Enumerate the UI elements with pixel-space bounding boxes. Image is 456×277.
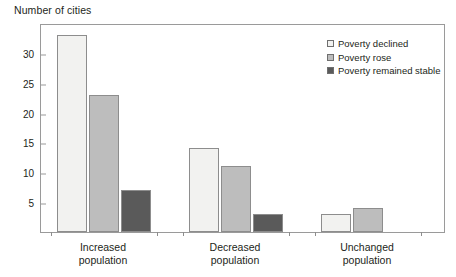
x-axis-category-label: Increasedpopulation <box>42 241 164 266</box>
legend-swatch <box>327 67 334 74</box>
x-axis-category-label-line: Decreased <box>174 241 296 254</box>
legend-swatch <box>327 40 334 47</box>
y-axis-tick-mark <box>41 114 46 115</box>
bar <box>221 166 251 232</box>
x-axis-tick-mark <box>421 232 422 236</box>
bar <box>121 190 151 232</box>
bar-group <box>57 25 169 232</box>
x-axis-tick-mark <box>51 232 52 236</box>
bar <box>89 95 119 232</box>
chart-legend: Poverty declinedPoverty rosePoverty rema… <box>327 38 440 76</box>
x-axis-category-label-line: population <box>42 254 164 267</box>
legend-label: Poverty rose <box>338 52 391 63</box>
bar <box>57 35 87 232</box>
x-axis-category-label-line: population <box>174 254 296 267</box>
x-axis-category-label-line: Unchanged <box>306 241 428 254</box>
x-axis-tick-mark <box>315 232 316 236</box>
x-axis-category-label-line: Increased <box>42 241 164 254</box>
x-axis-tick-mark <box>183 232 184 236</box>
y-axis-tick-label: 30 <box>23 50 41 60</box>
x-axis-tick-mark <box>289 232 290 236</box>
y-axis-tick-label: 5 <box>28 199 41 209</box>
bar <box>253 214 283 232</box>
x-axis-category-label: Unchangedpopulation <box>306 241 428 266</box>
bar-chart: Number of cities 51015202530 Poverty dec… <box>0 0 456 277</box>
bar-group <box>189 25 301 232</box>
bar <box>321 214 351 232</box>
y-axis-tick-mark <box>41 54 46 55</box>
x-axis-tick-mark <box>157 232 158 236</box>
y-axis-tick-mark <box>41 144 46 145</box>
y-axis-tick-label: 25 <box>23 80 41 90</box>
x-axis-category-label-line: population <box>306 254 428 267</box>
legend-label: Poverty declined <box>338 38 408 49</box>
x-axis-category-label: Decreasedpopulation <box>174 241 296 266</box>
bar <box>189 148 219 232</box>
y-axis-tick-label: 10 <box>23 169 41 179</box>
y-axis-tick-mark <box>41 84 46 85</box>
legend-label: Poverty remained stable <box>338 65 440 76</box>
legend-item: Poverty remained stable <box>327 65 440 76</box>
chart-title: Number of cities <box>14 4 91 16</box>
y-axis-tick-label: 15 <box>23 139 41 149</box>
y-axis-tick-mark <box>41 204 46 205</box>
legend-swatch <box>327 54 334 61</box>
y-axis-tick-label: 20 <box>23 110 41 120</box>
bar <box>353 208 383 232</box>
legend-item: Poverty declined <box>327 38 440 49</box>
legend-item: Poverty rose <box>327 52 440 63</box>
y-axis-tick-mark <box>41 174 46 175</box>
